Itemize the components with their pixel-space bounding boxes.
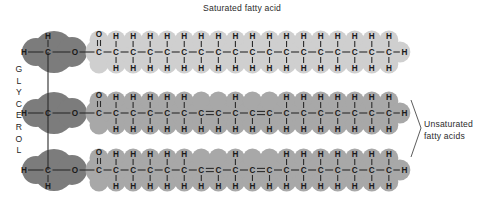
saturated-fatty-acid-h-bot-14: H xyxy=(335,64,341,73)
glycerol-h-vert-0: H xyxy=(45,32,51,41)
unsaturated-fatty-acid-2-h-top-13: H xyxy=(318,150,324,159)
unsaturated-fatty-acid-1-carbon-17: C xyxy=(386,109,392,118)
unsaturated-fatty-acid-2-h-top-14: H xyxy=(335,150,341,159)
saturated-fatty-acid-h-top-1: H xyxy=(113,32,119,41)
unsaturated-fatty-acid-2-terminal-hydrogen: H xyxy=(401,166,407,175)
saturated-fatty-acid-h-bot-17: H xyxy=(386,64,392,73)
unsaturated-fatty-acid-2-carbon-15: C xyxy=(352,166,358,175)
saturated-fatty-acid-carbon-17: C xyxy=(386,48,392,57)
saturated-fatty-acid-label: Saturated fatty acid xyxy=(203,3,281,13)
unsaturated-fatty-acid-1-h-bot-9: H xyxy=(249,125,255,134)
unsaturated-fatty-acid-1-h-top-8: H xyxy=(232,93,238,102)
unsaturated-fatty-acid-2-h-bot-13: H xyxy=(318,182,324,191)
unsaturated-fatty-acid-1-h-top-15: H xyxy=(352,93,358,102)
unsaturated-fatty-acid-1-terminal-hydrogen: H xyxy=(401,109,407,118)
unsaturated-fatty-acid-1-h-bot-10: H xyxy=(267,125,273,134)
unsaturated-fatty-acid-1-h-bot-8: H xyxy=(232,125,238,134)
saturated-fatty-acid-h-bot-8: H xyxy=(232,64,238,73)
unsaturated-fatty-acid-2-h-top-8: H xyxy=(232,150,238,159)
glycerol-h-vert-2: H xyxy=(45,182,51,191)
unsaturated-fatty-acid-2-h-top-5: H xyxy=(181,150,187,159)
saturated-fatty-acid-h-top-17: H xyxy=(386,32,392,41)
unsaturated-fatty-acid-1-carbon-16: C xyxy=(369,109,375,118)
unsaturated-fatty-acid-1-h-bot-16: H xyxy=(369,125,375,134)
unsaturated-fatty-acid-1-carbon-5: C xyxy=(181,109,187,118)
saturated-fatty-acid-h-top-6: H xyxy=(198,32,204,41)
unsaturated-fatty-acid-2-h-top-15: H xyxy=(352,150,358,159)
unsaturated-fatty-acid-1-carbonyl-oxygen: O xyxy=(96,91,103,100)
glycerol-letter-1: L xyxy=(16,76,21,88)
glycerol-oxygen-2: O xyxy=(72,166,79,175)
unsaturated-fatty-acid-1-carbon-7: C xyxy=(215,109,221,118)
saturated-fatty-acid-carbon-14: C xyxy=(335,48,341,57)
unsaturated-fatty-acid-1-h-top-2: H xyxy=(130,93,136,102)
saturated-fatty-acid-carbon-8: C xyxy=(232,48,238,57)
unsaturated-fatty-acid-1-carbon-1: C xyxy=(113,109,119,118)
unsaturated-fatty-acid-1-carbon-13: C xyxy=(318,109,324,118)
saturated-fatty-acid-h-bot-9: H xyxy=(249,64,255,73)
saturated-fatty-acid-h-top-15: H xyxy=(352,32,358,41)
unsaturated-fatty-acid-2-h-top-17: H xyxy=(386,150,392,159)
glycerol-oxygen-0: O xyxy=(72,48,79,57)
unsaturated-fatty-acid-1-carbon-2: C xyxy=(130,109,136,118)
unsaturated-fatty-acid-1-carbon-10: C xyxy=(267,109,273,118)
unsaturated-fatty-acid-2-h-bot-8: H xyxy=(232,182,238,191)
unsaturated-fatty-acid-2-h-bot-7: H xyxy=(215,182,221,191)
unsaturated-label-line2: fatty acids xyxy=(424,130,473,142)
saturated-fatty-acid-carbon-10: C xyxy=(267,48,273,57)
saturated-fatty-acid-carbon-4: C xyxy=(164,48,170,57)
saturated-fatty-acid-h-top-8: H xyxy=(232,32,238,41)
saturated-fatty-acid-terminal-hydrogen: H xyxy=(401,48,407,57)
unsaturated-fatty-acid-2-h-top-2: H xyxy=(130,150,136,159)
unsaturated-fatty-acid-2-h-bot-9: H xyxy=(249,182,255,191)
unsaturated-fatty-acid-2-carbon-9: C xyxy=(249,166,255,175)
unsaturated-fatty-acid-2-h-top-3: H xyxy=(147,150,153,159)
saturated-fatty-acid-h-bot-5: H xyxy=(181,64,187,73)
unsaturated-fatty-acid-1-carbon-3: C xyxy=(147,109,153,118)
saturated-fatty-acid-h-bot-12: H xyxy=(301,64,307,73)
unsaturated-fatty-acid-1-h-bot-6: H xyxy=(198,125,204,134)
unsaturated-fatty-acid-1-h-bot-3: H xyxy=(147,125,153,134)
saturated-fatty-acid-carbon-11: C xyxy=(284,48,290,57)
unsaturated-fatty-acid-2-carbon-16: C xyxy=(369,166,375,175)
saturated-fatty-acid-h-bot-13: H xyxy=(318,64,324,73)
glycerol-vertical-label: GLYCEROL xyxy=(12,64,26,157)
unsaturated-fatty-acid-1-h-bot-5: H xyxy=(181,125,187,134)
glycerol-letter-7: L xyxy=(16,145,21,157)
glycerol-letter-4: E xyxy=(16,110,22,122)
glycerol-letter-6: O xyxy=(16,134,23,146)
unsaturated-fatty-acid-2-carbon-0: C xyxy=(96,166,102,175)
saturated-fatty-acid-h-top-3: H xyxy=(147,32,153,41)
saturated-fatty-acid-carbon-7: C xyxy=(215,48,221,57)
unsaturated-fatty-acid-2-carbon-17: C xyxy=(386,166,392,175)
unsaturated-fatty-acid-1-h-bot-2: H xyxy=(130,125,136,134)
glycerol-letter-3: C xyxy=(16,99,23,111)
glycerol-h-left-0: H xyxy=(21,48,27,57)
unsaturated-fatty-acid-2-h-bot-12: H xyxy=(301,182,307,191)
unsaturated-fatty-acid-2-h-bot-6: H xyxy=(198,182,204,191)
unsaturated-fatty-acid-2-h-top-4: H xyxy=(164,150,170,159)
glycerol-carbon-1: C xyxy=(45,109,51,118)
unsaturated-fatty-acid-2-h-bot-3: H xyxy=(147,182,153,191)
glycerol-letter-5: R xyxy=(16,122,23,134)
saturated-fatty-acid-h-bot-15: H xyxy=(352,64,358,73)
unsaturated-fatty-acid-2-h-bot-1: H xyxy=(113,182,119,191)
unsaturated-fatty-acid-2-carbon-12: C xyxy=(301,166,307,175)
unsaturated-fatty-acid-1-carbon-11: C xyxy=(284,109,290,118)
unsaturated-fatty-acid-2-h-bot-10: H xyxy=(267,182,273,191)
glycerol-carbon-2: C xyxy=(45,166,51,175)
saturated-fatty-acid-h-top-14: H xyxy=(335,32,341,41)
unsaturated-fatty-acid-1-h-top-16: H xyxy=(369,93,375,102)
unsaturated-fatty-acid-1-h-bot-7: H xyxy=(215,125,221,134)
unsaturated-fatty-acid-2-h-top-1: H xyxy=(113,150,119,159)
saturated-fatty-acid-h-bot-1: H xyxy=(113,64,119,73)
unsaturated-fatty-acid-1-carbon-8: C xyxy=(232,109,238,118)
unsaturated-fatty-acid-2-h-top-16: H xyxy=(369,150,375,159)
saturated-fatty-acid-carbon-13: C xyxy=(318,48,324,57)
glycerol-letter-0: G xyxy=(16,64,23,76)
saturated-fatty-acid-carbon-9: C xyxy=(249,48,255,57)
saturated-fatty-acid-carbon-5: C xyxy=(181,48,187,57)
glycerol-oxygen-1: O xyxy=(72,109,79,118)
unsaturated-fatty-acid-1-h-bot-1: H xyxy=(113,125,119,134)
saturated-fatty-acid-h-bot-6: H xyxy=(198,64,204,73)
